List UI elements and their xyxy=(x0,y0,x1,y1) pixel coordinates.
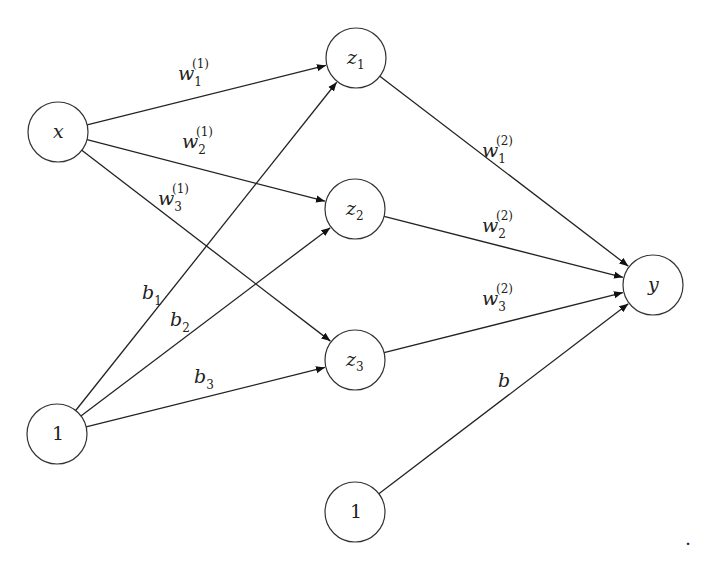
edge-labels-layer: w1(1)w2(1)w3(1)b1b2b3w1(2)w2(2)w3(2)b xyxy=(142,57,513,392)
edge-one_hidden-to-y xyxy=(379,304,628,494)
node-z3: z3 xyxy=(325,330,385,390)
edge-label-superscript: (1) xyxy=(196,125,213,139)
node-label: x xyxy=(53,120,64,142)
edges-layer xyxy=(76,65,629,493)
edge-label-superscript: (2) xyxy=(496,209,513,223)
node-one_hidden: 1 xyxy=(325,482,385,542)
edge-z2-to-y xyxy=(384,216,623,277)
edge-label-superscript: (2) xyxy=(496,134,513,148)
node-z1: z1 xyxy=(326,28,386,88)
edge-label-one_in-to-z1: b1 xyxy=(142,281,162,308)
node-label: y xyxy=(647,273,659,295)
node-y: y xyxy=(623,255,683,315)
node-one_in: 1 xyxy=(27,404,87,464)
node-z2: z2 xyxy=(325,179,385,239)
edge-label-one_in-to-z3: b3 xyxy=(194,365,214,392)
edge-label-superscript: (2) xyxy=(496,282,513,296)
edge-x-to-z1 xyxy=(87,65,326,124)
node-label: 1 xyxy=(350,500,362,522)
nodes-layer: x1z1z2z31y xyxy=(27,28,683,542)
diagram-svg: x1z1z2z31y w1(1)w2(1)w3(1)b1b2b3w1(2)w2(… xyxy=(0,0,705,567)
edge-label-one_hidden-to-y: b xyxy=(498,369,510,391)
edge-label-one_in-to-z2: b2 xyxy=(170,308,190,335)
neural-network-diagram: x1z1z2z31y w1(1)w2(1)w3(1)b1b2b3w1(2)w2(… xyxy=(0,0,705,567)
trailing-period: . xyxy=(685,527,691,549)
edge-x-to-z2 xyxy=(87,140,325,202)
node-x: x xyxy=(28,102,88,162)
node-label: 1 xyxy=(52,422,64,444)
edge-label-superscript: (1) xyxy=(172,182,189,196)
edge-label-superscript: (1) xyxy=(192,57,209,71)
